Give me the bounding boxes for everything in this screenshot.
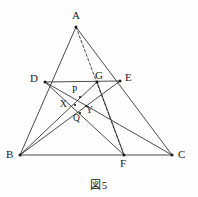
- vertex-dot-P: [79, 96, 81, 98]
- point-label-A: A: [72, 10, 80, 21]
- vertex-dot-A: [75, 26, 78, 29]
- point-label-G: G: [95, 70, 103, 81]
- point-label-Y: Y: [86, 106, 93, 116]
- vertex-dot-E: [119, 80, 122, 83]
- segment-AC: [76, 27, 172, 155]
- point-label-D: D: [30, 73, 38, 84]
- point-label-B: B: [6, 149, 13, 160]
- segment-GF: [97, 82, 124, 155]
- segment-GB: [20, 82, 97, 155]
- segment-layer: [20, 27, 172, 155]
- point-label-C: C: [178, 149, 185, 160]
- vertex-dot-C: [171, 154, 174, 157]
- point-label-P: P: [72, 86, 77, 96]
- point-layer: [19, 26, 174, 157]
- point-label-E: E: [125, 72, 132, 83]
- point-label-Q: Q: [73, 114, 80, 124]
- geometry-figure: A B C D E F G P X Y Q 図5: [0, 0, 198, 197]
- vertex-dot-D: [44, 81, 47, 84]
- figure-caption: 図5: [0, 176, 198, 192]
- segment-DE: [45, 81, 120, 82]
- vertex-dot-B: [19, 154, 22, 157]
- point-label-F: F: [120, 158, 126, 169]
- segment-DF: [45, 82, 124, 155]
- vertex-dot-X: [74, 104, 76, 106]
- segment-AB: [20, 27, 76, 155]
- segment-EB: [20, 81, 120, 155]
- geometry-canvas: [0, 0, 198, 197]
- point-label-X: X: [60, 100, 67, 110]
- segment-DC: [45, 82, 172, 155]
